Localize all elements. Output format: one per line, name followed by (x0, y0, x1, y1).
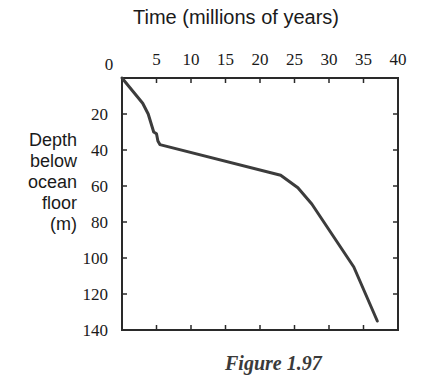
y-tick-label: 20 (91, 105, 108, 124)
y-tick-label: 100 (83, 249, 109, 268)
x-tick-label: 15 (217, 50, 234, 69)
y-tick-label: 120 (83, 285, 109, 304)
x-tick-label: 20 (252, 50, 269, 69)
plot-frame (122, 78, 398, 330)
x-tick-label: 25 (286, 50, 303, 69)
x-tick-label: 30 (321, 50, 338, 69)
figure-caption: Figure 1.97 (225, 352, 322, 375)
data-line (122, 78, 377, 321)
y-tick-label: 60 (91, 177, 108, 196)
y-tick-label: 80 (91, 213, 108, 232)
x-tick-label: 0 (105, 55, 114, 74)
x-tick-label: 40 (390, 50, 407, 69)
x-tick-label: 35 (355, 50, 372, 69)
x-tick-label: 10 (183, 50, 200, 69)
y-tick-label: 40 (91, 141, 108, 160)
plot-area: 051015202530354020406080100120140 (0, 0, 432, 389)
x-tick-label: 5 (152, 50, 161, 69)
y-tick-label: 140 (83, 321, 109, 340)
